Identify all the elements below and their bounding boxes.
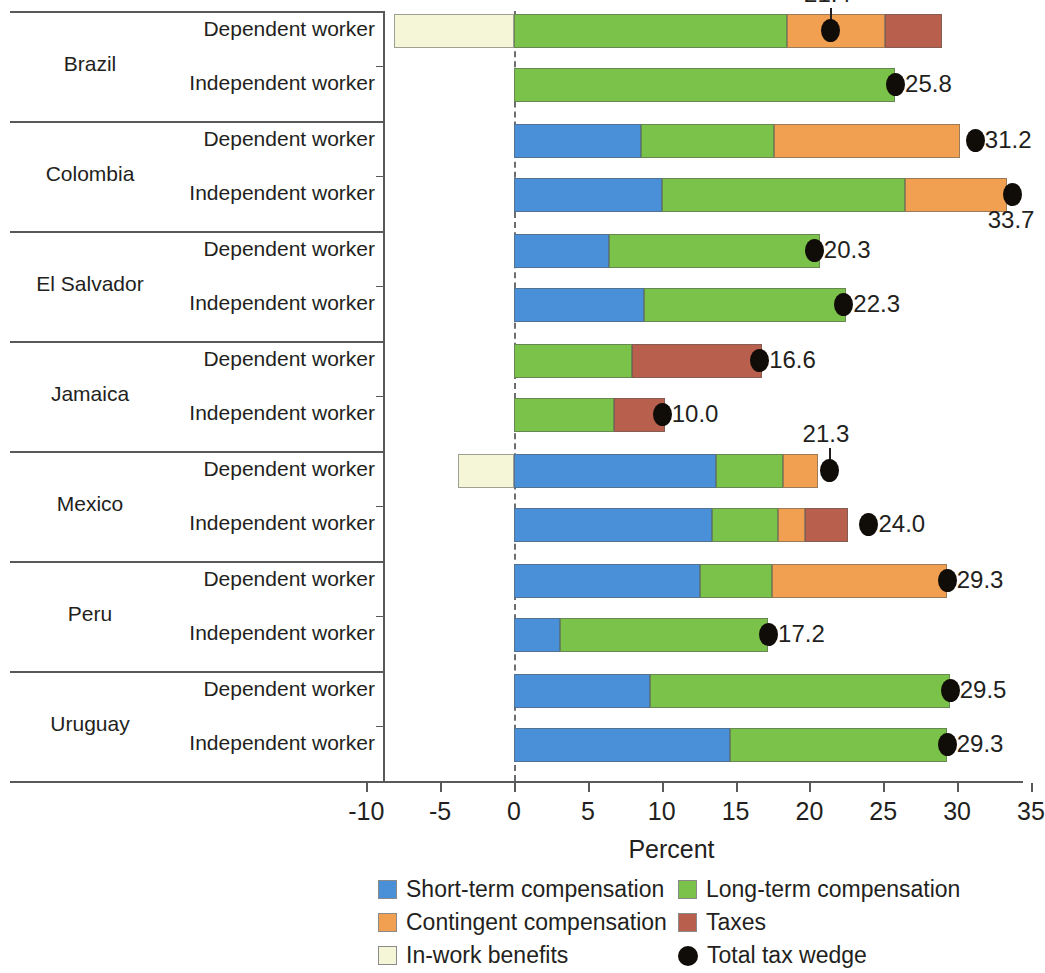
total-tax-wedge-marker xyxy=(941,679,960,702)
stacked-bar-row: 24.0 xyxy=(385,508,1023,542)
legend-item: Taxes xyxy=(678,909,766,936)
worker-type-label: Independent worker xyxy=(75,181,375,205)
value-label: 10.0 xyxy=(672,400,719,428)
stacked-bar-row: 22.3 xyxy=(385,288,1023,322)
total-tax-wedge-marker xyxy=(759,623,778,646)
total-tax-wedge-marker xyxy=(886,73,905,96)
segment-long-term-compensation xyxy=(514,398,614,432)
segment-contingent-compensation xyxy=(783,454,818,488)
x-axis-tick-label: -10 xyxy=(348,797,384,826)
worker-type-label: Independent worker xyxy=(75,401,375,425)
total-tax-wedge-marker xyxy=(938,733,957,756)
legend-label: Contingent compensation xyxy=(406,909,667,936)
segment-contingent-compensation xyxy=(772,564,946,598)
segment-short-term-compensation xyxy=(514,728,730,762)
group-axis-tick xyxy=(376,506,385,507)
segment-long-term-compensation xyxy=(716,454,782,488)
worker-type-label: Dependent worker xyxy=(75,347,375,371)
group-separator xyxy=(10,11,385,13)
segment-long-term-compensation xyxy=(609,234,820,268)
x-axis-tick-label: 15 xyxy=(722,797,750,826)
stacked-bar-row: 29.3 xyxy=(385,728,1023,762)
total-tax-wedge-marker xyxy=(750,349,769,372)
legend-label: Taxes xyxy=(706,909,766,936)
x-axis-tick-label: 5 xyxy=(581,797,595,826)
x-axis-tick xyxy=(883,783,885,792)
stacked-bar-row: 16.6 xyxy=(385,344,1023,378)
x-axis-tick xyxy=(588,783,590,792)
value-label: 25.8 xyxy=(905,70,952,98)
value-label: 24.0 xyxy=(878,510,925,538)
legend-swatch-square-icon xyxy=(378,946,397,965)
legend-swatch-square-icon xyxy=(678,913,697,932)
x-axis-tick xyxy=(366,783,368,792)
x-axis-tick xyxy=(514,783,516,792)
segment-contingent-compensation xyxy=(774,124,960,158)
segment-short-term-compensation xyxy=(514,288,644,322)
group-separator xyxy=(10,671,385,673)
legend-label: Short-term compensation xyxy=(406,876,664,903)
x-axis-tick-label: 25 xyxy=(869,797,897,826)
value-label: 22.3 xyxy=(853,290,900,318)
segment-short-term-compensation xyxy=(514,234,609,268)
total-tax-wedge-marker xyxy=(805,239,824,262)
value-label: 16.6 xyxy=(769,346,816,374)
segment-long-term-compensation xyxy=(644,288,846,322)
x-axis-tick xyxy=(662,783,664,792)
group-axis-tick xyxy=(376,66,385,67)
legend-item: Long-term compensation xyxy=(678,876,960,903)
value-label: 21.3 xyxy=(803,420,850,448)
total-tax-wedge-marker xyxy=(938,569,957,592)
segment-long-term-compensation xyxy=(700,564,772,598)
value-label: 29.3 xyxy=(957,730,1004,758)
segment-short-term-compensation xyxy=(514,564,700,598)
group-axis-tick xyxy=(376,616,385,617)
x-axis-tick xyxy=(1031,783,1033,792)
total-tax-wedge-marker xyxy=(1003,183,1022,206)
legend-swatch-square-icon xyxy=(378,880,397,899)
legend-swatch-dot-icon xyxy=(678,946,698,966)
worker-type-label: Dependent worker xyxy=(75,17,375,41)
segment-taxes xyxy=(632,344,762,378)
segment-taxes xyxy=(885,14,943,48)
total-tax-wedge-marker xyxy=(820,459,839,482)
legend-item: Contingent compensation xyxy=(378,909,667,936)
segment-short-term-compensation xyxy=(514,508,712,542)
segment-in-work-benefits xyxy=(394,14,514,48)
chart-legend: Short-term compensationLong-term compens… xyxy=(378,876,1018,971)
worker-type-label: Independent worker xyxy=(75,731,375,755)
segment-long-term-compensation xyxy=(514,14,787,48)
value-label: 29.5 xyxy=(960,676,1007,704)
legend-swatch-square-icon xyxy=(678,880,697,899)
stacked-bar-row: 21.3 xyxy=(385,454,1023,488)
segment-short-term-compensation xyxy=(514,618,560,652)
legend-label: Long-term compensation xyxy=(706,876,960,903)
x-axis-tick xyxy=(736,783,738,792)
legend-item: Short-term compensation xyxy=(378,876,664,903)
legend-item: Total tax wedge xyxy=(678,942,867,969)
bars-area: 21.425.831.233.720.322.316.610.021.324.0… xyxy=(385,11,1023,781)
group-axis-tick xyxy=(376,286,385,287)
group-axis-tick xyxy=(376,396,385,397)
segment-short-term-compensation xyxy=(514,124,641,158)
chart-plot-area: BrazilDependent workerIndependent worker… xyxy=(10,11,1023,781)
stacked-bar-row: 21.4 xyxy=(385,14,1023,48)
stacked-bar-row: 10.0 xyxy=(385,398,1023,432)
x-axis: -10-505101520253035 xyxy=(10,781,1023,786)
group-separator xyxy=(10,121,385,123)
value-label: 31.2 xyxy=(985,126,1032,154)
value-label: 33.7 xyxy=(988,206,1035,234)
worker-type-label: Dependent worker xyxy=(75,567,375,591)
legend-swatch-square-icon xyxy=(378,913,397,932)
worker-type-label: Dependent worker xyxy=(75,677,375,701)
stacked-bar-row: 29.3 xyxy=(385,564,1023,598)
segment-long-term-compensation xyxy=(514,68,895,102)
legend-label: In-work benefits xyxy=(406,942,568,969)
segment-short-term-compensation xyxy=(514,178,662,212)
total-tax-wedge-marker xyxy=(834,293,853,316)
group-separator xyxy=(10,341,385,343)
value-label: 17.2 xyxy=(778,620,825,648)
legend-item: In-work benefits xyxy=(378,942,568,969)
worker-type-label: Independent worker xyxy=(75,71,375,95)
x-axis-tick-label: 10 xyxy=(648,797,676,826)
